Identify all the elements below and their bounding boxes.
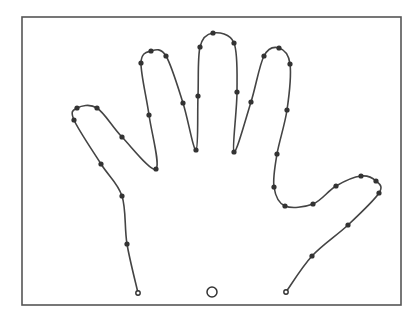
control-point[interactable] <box>271 184 276 189</box>
control-point[interactable] <box>284 107 289 112</box>
hollow-circle-marker[interactable] <box>207 287 217 297</box>
control-point[interactable] <box>345 222 350 227</box>
start-point[interactable] <box>136 291 140 295</box>
control-point[interactable] <box>261 53 266 58</box>
control-point[interactable] <box>333 183 338 188</box>
control-point[interactable] <box>74 105 79 110</box>
control-point[interactable] <box>119 134 124 139</box>
control-point[interactable] <box>195 93 200 98</box>
control-point[interactable] <box>163 53 168 58</box>
control-point[interactable] <box>376 190 381 195</box>
control-point[interactable] <box>119 193 124 198</box>
control-point[interactable] <box>248 99 253 104</box>
control-point[interactable] <box>210 30 215 35</box>
control-point[interactable] <box>287 61 292 66</box>
control-point[interactable] <box>309 253 314 258</box>
control-point[interactable] <box>282 203 287 208</box>
control-point[interactable] <box>153 166 158 171</box>
control-point[interactable] <box>276 45 281 50</box>
end-point[interactable] <box>284 290 288 294</box>
control-point[interactable] <box>310 201 315 206</box>
control-point[interactable] <box>197 44 202 49</box>
control-point[interactable] <box>231 40 236 45</box>
control-point[interactable] <box>148 48 153 53</box>
control-point[interactable] <box>193 147 198 152</box>
control-point[interactable] <box>138 60 143 65</box>
control-point[interactable] <box>373 178 378 183</box>
control-point[interactable] <box>146 112 151 117</box>
hand-spline-diagram <box>0 0 420 320</box>
control-point[interactable] <box>274 151 279 156</box>
control-point[interactable] <box>124 241 129 246</box>
diagram-frame <box>22 17 401 305</box>
control-point[interactable] <box>94 105 99 110</box>
control-point[interactable] <box>98 161 103 166</box>
control-point[interactable] <box>71 117 76 122</box>
control-point[interactable] <box>231 149 236 154</box>
control-point[interactable] <box>234 89 239 94</box>
control-point[interactable] <box>358 173 363 178</box>
control-point[interactable] <box>180 100 185 105</box>
